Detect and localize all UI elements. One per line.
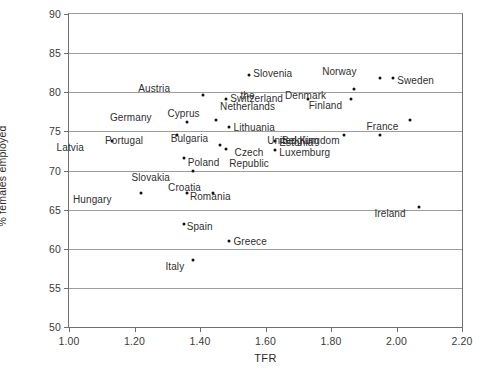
x-axis-tick <box>462 327 463 332</box>
data-point-label: Spain <box>187 221 213 232</box>
x-axis-tick <box>200 327 201 332</box>
data-point-label: Cyprus <box>167 108 199 119</box>
x-axis-tick-label: 2.00 <box>386 335 407 347</box>
data-point <box>218 143 221 146</box>
data-point <box>185 120 188 123</box>
y-axis-tick-label: 75 <box>49 125 61 137</box>
data-point <box>343 133 346 136</box>
data-point <box>379 77 382 80</box>
data-point-label: Hungary <box>73 194 112 205</box>
y-axis-tick <box>64 92 69 93</box>
data-point <box>408 119 411 122</box>
data-point-label: Ireland <box>374 208 405 219</box>
x-axis-tick-label: 1.80 <box>320 335 341 347</box>
x-axis-title: TFR <box>68 352 463 364</box>
data-point-label: Italy <box>165 261 184 272</box>
data-point <box>248 74 251 77</box>
data-point-label: Slovakia <box>131 172 170 183</box>
y-axis-tick <box>64 288 69 289</box>
data-point <box>228 126 231 129</box>
x-axis-tick-label: 1.20 <box>124 335 145 347</box>
data-point-label: Denmark <box>285 90 326 101</box>
data-point <box>212 192 215 195</box>
data-point <box>182 223 185 226</box>
y-axis-title: % females employed <box>0 125 8 226</box>
y-axis-tick-label: 90 <box>49 8 61 20</box>
y-axis-tick <box>64 249 69 250</box>
data-point-label: France <box>367 121 399 132</box>
gridline-horizontal <box>69 53 462 54</box>
data-point <box>274 149 277 152</box>
x-axis-tick-label: 1.40 <box>189 335 210 347</box>
data-point-label: Portugal <box>105 135 143 146</box>
data-point-label: Sweden <box>397 75 434 86</box>
y-axis-tick-label: 85 <box>49 47 61 59</box>
x-axis-tick <box>266 327 267 332</box>
y-axis-tick-label: 80 <box>49 86 61 98</box>
x-axis-tick <box>331 327 332 332</box>
x-axis-tick-label: 1.60 <box>255 335 276 347</box>
gridline-horizontal <box>69 171 462 172</box>
y-axis-tick <box>64 131 69 132</box>
data-point-label: Croatia <box>168 182 201 193</box>
data-point-label: Slovenia <box>253 68 292 79</box>
data-point-label: Austria <box>138 83 170 94</box>
data-point <box>215 118 218 121</box>
data-point-label: Poland <box>188 157 220 168</box>
data-point <box>192 259 195 262</box>
data-point-label: Germany <box>110 112 152 123</box>
data-point <box>182 156 185 159</box>
data-point <box>202 94 205 97</box>
y-axis-tick-label: 60 <box>49 243 61 255</box>
x-axis-tick-label: 2.20 <box>451 335 472 347</box>
y-axis-tick <box>64 171 69 172</box>
y-axis-tick-label: 70 <box>49 165 61 177</box>
data-point-label: Latvia <box>57 142 84 153</box>
data-point <box>349 97 352 100</box>
data-point <box>228 239 231 242</box>
data-point-label: United Kingdom <box>267 135 340 146</box>
scatter-chart: 5055606570758085901.001.201.401.601.802.… <box>0 0 484 372</box>
x-axis-tick-label: 1.00 <box>58 335 79 347</box>
y-axis-tick-label: 55 <box>49 282 61 294</box>
data-point <box>140 192 143 195</box>
data-point-label: Czech Republic <box>229 147 269 169</box>
y-axis-tick <box>64 14 69 15</box>
plot-area: 5055606570758085901.001.201.401.601.802.… <box>68 13 463 328</box>
data-point-label: Finland <box>309 100 343 111</box>
data-point-label: Norway <box>322 66 357 77</box>
data-point-label: the Netherlands <box>220 90 275 112</box>
gridline-horizontal <box>69 249 462 250</box>
x-axis-tick <box>135 327 136 332</box>
data-point-label: Greece <box>233 236 266 247</box>
y-axis-tick-label: 50 <box>49 321 61 333</box>
data-point <box>418 206 421 209</box>
data-point <box>392 77 395 80</box>
y-axis-tick-label: 65 <box>49 204 61 216</box>
data-point <box>192 170 195 173</box>
data-point <box>225 147 228 150</box>
y-axis-tick <box>64 53 69 54</box>
data-point <box>379 133 382 136</box>
y-axis-tick <box>64 210 69 211</box>
data-point <box>352 88 355 91</box>
gridline-horizontal <box>69 288 462 289</box>
data-point-label: Lithuania <box>233 122 275 133</box>
x-axis-tick <box>397 327 398 332</box>
data-point-label: Luxemburg <box>279 147 330 158</box>
x-axis-tick <box>69 327 70 332</box>
data-point-label: Bulgaria <box>171 133 209 144</box>
